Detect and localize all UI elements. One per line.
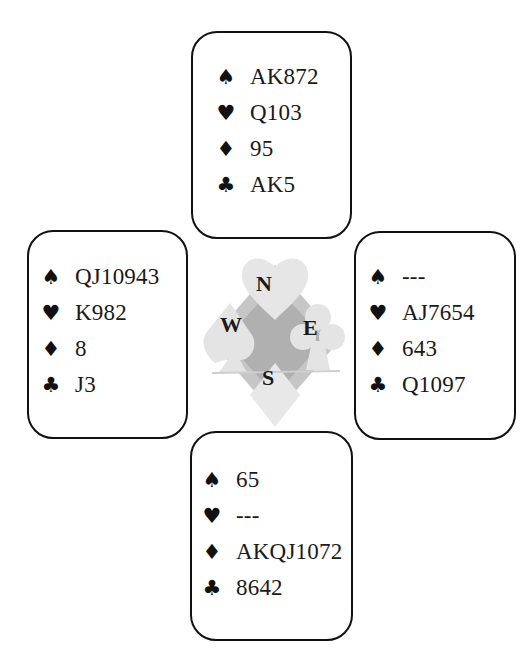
west-clubs-cards: J3 [75,367,96,403]
south-hearts-cards: --- [236,498,260,534]
east-diamonds-row: ♦ 643 [368,331,437,367]
north-spades-cards: AK872 [250,59,319,95]
north-hand: ♠ AK872 ♥ Q103 ♦ 95 ♣ AK5 [191,31,352,239]
diamond-icon: ♦ [41,331,61,367]
south-hearts-row: ♥ --- [202,498,260,534]
south-diamonds-cards: AKQJ1072 [236,534,342,570]
north-hearts-cards: Q103 [250,95,302,131]
north-spades-row: ♠ AK872 [216,59,319,95]
compass-west-label: W [220,312,242,338]
east-spades-row: ♠ --- [368,259,426,295]
diamond-icon: ♦ [368,331,388,367]
north-diamonds-row: ♦ 95 [216,131,273,167]
heart-icon: ♥ [202,498,222,534]
south-clubs-row: ♣ 8642 [202,570,283,606]
club-icon: ♣ [41,367,61,403]
east-hand: ♠ --- ♥ AJ7654 ♦ 643 ♣ Q1097 [354,231,516,440]
east-hearts-row: ♥ AJ7654 [368,295,475,331]
compass-south-label: S [262,365,274,391]
spade-icon: ♠ [41,259,61,295]
spade-icon: ♠ [368,259,388,295]
club-icon: ♣ [202,570,222,606]
east-clubs-cards: Q1097 [402,367,466,403]
compass-graphic: N W E S [200,245,350,430]
club-icon: ♣ [368,367,388,403]
west-spades-row: ♠ QJ10943 [41,259,159,295]
west-diamonds-row: ♦ 8 [41,331,87,367]
compass-north-label: N [256,271,272,297]
club-icon: ♣ [216,167,236,203]
north-diamonds-cards: 95 [250,131,273,167]
west-hearts-row: ♥ K982 [41,295,127,331]
south-clubs-cards: 8642 [236,570,283,606]
diamond-icon: ♦ [202,534,222,570]
diamond-icon: ♦ [216,131,236,167]
heart-icon: ♥ [216,95,236,131]
spade-icon: ♠ [202,462,222,498]
west-spades-cards: QJ10943 [75,259,159,295]
north-clubs-cards: AK5 [250,167,295,203]
spade-icon: ♠ [216,59,236,95]
west-diamonds-cards: 8 [75,331,87,367]
east-diamonds-cards: 643 [402,331,437,367]
north-hearts-row: ♥ Q103 [216,95,302,131]
east-hearts-cards: AJ7654 [402,295,475,331]
south-spades-row: ♠ 65 [202,462,259,498]
south-spades-cards: 65 [236,462,259,498]
west-hearts-cards: K982 [75,295,127,331]
south-diamonds-row: ♦ AKQJ1072 [202,534,342,570]
west-clubs-row: ♣ J3 [41,367,96,403]
south-hand: ♠ 65 ♥ --- ♦ AKQJ1072 ♣ 8642 [190,431,353,641]
heart-icon: ♥ [368,295,388,331]
north-clubs-row: ♣ AK5 [216,167,295,203]
east-spades-cards: --- [402,259,426,295]
east-clubs-row: ♣ Q1097 [368,367,466,403]
compass-east-label: E [303,315,318,341]
west-hand: ♠ QJ10943 ♥ K982 ♦ 8 ♣ J3 [27,230,188,439]
heart-icon: ♥ [41,295,61,331]
